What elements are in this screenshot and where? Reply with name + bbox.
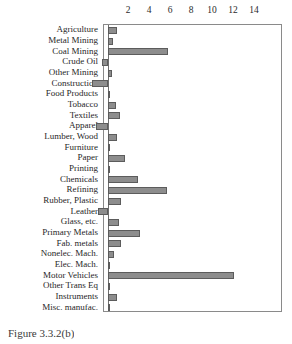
bar [108,304,110,311]
category-label: Agriculture [57,25,98,34]
bar [108,144,110,151]
category-label: Primary Metals [42,228,98,237]
category-label: Chemicals [60,174,98,183]
bar [108,70,112,77]
x-tick-label: 12 [228,5,238,15]
category-label: Metal Mining [48,36,98,45]
bar [108,176,138,183]
bar [108,187,167,194]
category-label: Furniture [65,142,99,151]
category-label: Other Trans Eq [43,281,98,290]
x-tick-label: 4 [147,5,152,15]
bar [108,198,121,205]
bar [108,155,125,162]
category-label: Fab. metals [57,238,99,247]
category-label: Paper [78,153,99,162]
category-label: Rubber, Plastic [43,196,98,205]
bar [108,91,110,98]
category-label: Elec. Mach. [55,260,98,269]
y-axis-category-labels: AgricultureMetal MiningCoal MiningCrude … [0,24,101,312]
category-label: Printing [69,164,98,173]
bar [108,134,117,141]
x-axis-tick-labels: 2468101214 [0,0,292,24]
category-label: Crude Oil [62,57,98,66]
x-tick-label: 2 [126,5,131,15]
bar [108,38,113,45]
bar [108,112,120,119]
x-tick-label: 8 [189,5,194,15]
bar [108,294,117,301]
x-tick-label: 6 [168,5,173,15]
bar [108,283,110,290]
bar [108,27,117,34]
category-label: Instruments [56,292,99,301]
bar [98,208,109,215]
bar [102,59,108,66]
figure-caption: Figure 3.3.2(b) [8,327,74,344]
category-label: Misc. manufac. [42,302,98,311]
category-label: Tobacco [68,100,98,109]
category-label: Glass, etc. [61,217,98,226]
category-label: Coal Mining [52,46,98,55]
category-label: Nonelec. Mach. [41,249,98,258]
bar [108,240,121,247]
category-label: Other Mining [49,68,98,77]
bar [96,123,108,130]
x-tick-label: 14 [249,5,259,15]
category-label: Motor Vehicles [43,270,98,279]
x-tick-label: 10 [207,5,217,15]
bar [108,102,116,109]
category-label: Leather [71,206,98,215]
bars-container [104,25,281,311]
plot-area [103,24,282,312]
category-label: Apparel [69,121,98,130]
bar [108,251,114,258]
bar [108,262,110,269]
category-label: Textiles [70,110,98,119]
category-label: Lumber, Wood [44,132,98,141]
chart-figure: 2468101214 AgricultureMetal MiningCoal M… [0,0,292,344]
category-label: Construction [52,78,99,87]
bar [92,80,108,87]
bar [108,272,234,279]
bar [108,230,140,237]
category-label: Refining [67,185,99,194]
bar [108,219,119,226]
category-label: Food Products [46,89,98,98]
bar [108,48,168,55]
bar [108,166,110,173]
